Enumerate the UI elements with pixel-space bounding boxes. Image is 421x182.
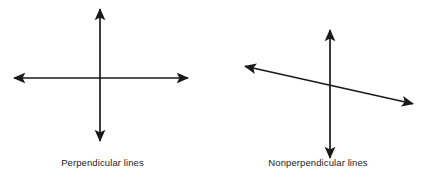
caption-nonperpendicular: Nonperpendicular lines xyxy=(215,157,421,169)
panel-nonperpendicular xyxy=(245,30,413,158)
caption-perpendicular: Perpendicular lines xyxy=(0,157,205,169)
nonperpendicular-slanted-line xyxy=(245,66,413,104)
panel-perpendicular xyxy=(14,9,188,141)
lines-figure xyxy=(0,0,421,182)
